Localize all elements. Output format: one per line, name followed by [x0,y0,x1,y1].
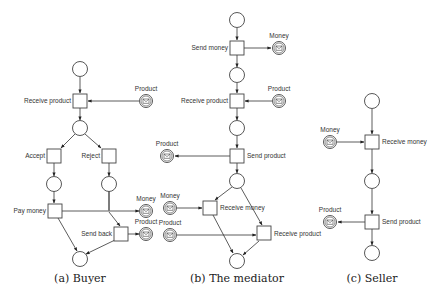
envelope-icon [164,229,177,242]
buyer-net: Receive product Accept Reject Pay money … [13,62,157,286]
place-seller-start [365,94,380,109]
seller-net: Receive money Send product Money Product… [319,94,428,286]
transition-receive-money [365,135,379,149]
caption-seller: (c) Seller [346,272,398,285]
msg-label-product-out: Product [135,218,158,225]
envelope-icon [273,42,286,55]
place-buyer-start [73,62,88,77]
msg-label-money-out: Money [269,32,289,40]
label-send-product: Send product [382,218,421,226]
label-receive-money: Receive money [382,138,428,146]
transition-receive-product [73,94,87,108]
msg-label-money-out: Money [136,195,156,203]
label-receive-product-2: Receive product [274,230,321,238]
envelope-icon [273,95,286,108]
envelope-icon [324,136,337,149]
msg-label-product-out: Product [319,206,342,213]
place-buyer-accepted [47,177,62,192]
envelope-icon [164,202,177,215]
envelope-icon [140,205,153,218]
transition-send-money [230,41,244,55]
place-mediator-p3 [230,174,245,189]
label-send-money: Send money [192,44,229,52]
envelope-icon [161,150,174,163]
label-send-back: Send back [81,230,112,237]
place-mediator-start [230,13,245,28]
place-seller-end [365,246,380,261]
label-accept: Accept [25,152,45,160]
transition-send-product [230,149,244,163]
petri-net-diagram: Receive product Accept Reject Pay money … [0,0,440,304]
transition-pay-money [48,204,62,218]
transition-reject [102,149,116,163]
envelope-icon [140,95,153,108]
label-receive-product: Receive product [24,97,71,105]
mediator-net: Send money Receive product Send product … [156,13,321,286]
label-receive-product: Receive product [181,97,228,105]
transition-send-product [365,215,379,229]
transition-receive-product [230,94,244,108]
place-seller-p1 [365,174,380,189]
transition-receive-money [203,201,217,215]
caption-mediator: (b) The mediator [190,272,285,285]
envelope-icon [140,228,153,241]
place-buyer-end [73,252,88,267]
transition-receive-product-2 [257,226,271,240]
place-mediator-p2 [230,121,245,136]
transition-accept [47,149,61,163]
caption-buyer: (a) Buyer [54,272,107,285]
label-pay-money: Pay money [13,207,46,215]
msg-label-product-in: Product [135,85,158,92]
place-mediator-end [230,254,245,269]
transition-send-back [114,227,128,241]
msg-label-product-in-2: Product [159,219,182,226]
msg-label-money-in: Money [160,192,180,200]
place-buyer-rejected [102,177,117,192]
label-send-product: Send product [247,152,286,160]
label-reject: Reject [82,152,101,160]
msg-label-money-in: Money [320,126,340,134]
msg-label-product-in: Product [268,85,291,92]
msg-label-product-out: Product [156,140,179,147]
envelope-icon [324,216,337,229]
place-buyer-received [73,121,88,136]
place-mediator-p1 [230,68,245,83]
label-receive-money: Receive money [220,204,266,212]
